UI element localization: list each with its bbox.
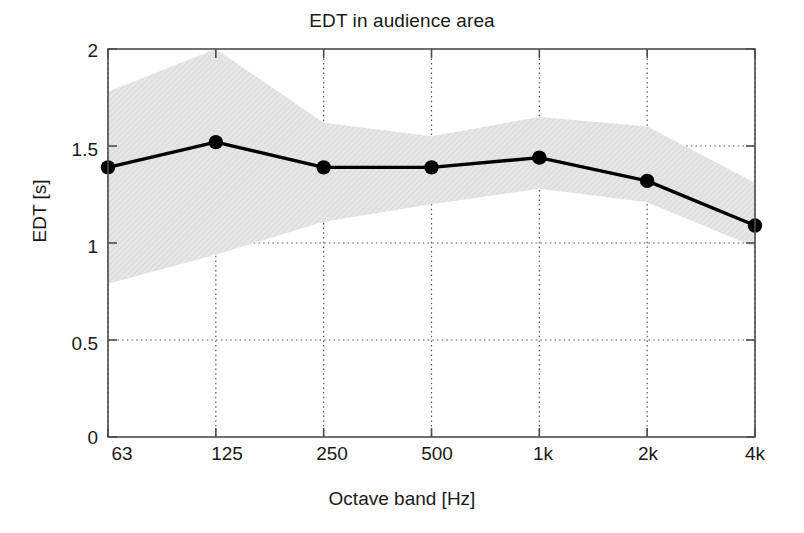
figure-container: EDT in audience area EDT [s] Octave band… — [0, 0, 804, 533]
plot-area — [0, 0, 804, 533]
